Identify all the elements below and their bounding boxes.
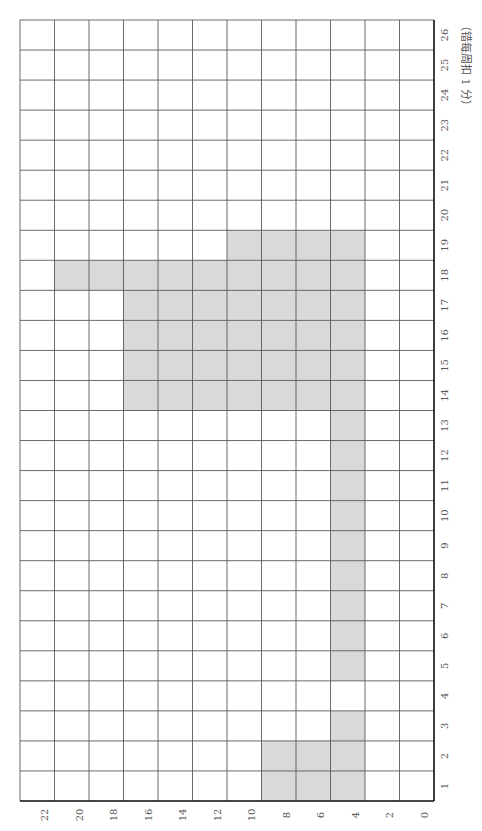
week-label: 17 [439,299,450,312]
range-bar-week-12 [331,441,366,471]
week-label: 23 [439,119,450,132]
week-label: 2 [439,753,450,759]
value-tick-label: 6 [315,812,326,818]
value-tick-label: 20 [74,809,85,822]
grid-lines [20,20,434,801]
week-label: 3 [439,723,450,729]
week-label: 12 [439,449,450,462]
range-bar-week-11 [331,471,366,501]
range-bar-week-16 [124,320,366,350]
range-bar-week-15 [124,350,366,380]
value-tick-label: 18 [108,809,119,822]
range-bar-week-7 [331,591,366,621]
week-label: 4 [439,693,450,699]
week-label: 19 [439,239,450,252]
week-label: 22 [439,149,450,162]
week-label: 13 [439,419,450,432]
week-label: 5 [439,663,450,669]
value-tick-label: 0 [419,812,430,818]
week-label: 24 [439,89,450,102]
range-bar-week-13 [331,411,366,441]
range-bar-week-2 [262,741,366,771]
value-tick-label: 22 [39,809,50,822]
value-tick-label: 4 [350,812,361,818]
week-label: 18 [439,269,450,282]
value-tick-label: 12 [212,809,223,822]
range-bar-week-8 [331,561,366,591]
range-bar-week-1 [262,771,366,801]
rotated-range-chart: 1234567891011121314151617181920212223242… [0,0,482,831]
week-label: 15 [439,359,450,372]
week-label: 11 [439,479,450,492]
week-label: 20 [439,209,450,222]
value-tick-label: 2 [384,812,395,818]
range-bar-week-9 [331,531,366,561]
shaded-ranges [55,230,366,801]
week-label: 25 [439,59,450,72]
week-label: 9 [439,542,450,548]
range-bar-week-3 [331,711,366,741]
value-tick-label: 10 [246,809,257,822]
range-bar-week-6 [331,621,366,651]
week-label: 7 [439,603,450,609]
value-tick-label: 16 [143,809,154,822]
week-axis-labels: 1234567891011121314151617181920212223242… [439,29,450,790]
range-bar-week-14 [124,380,366,410]
week-label: 21 [439,179,450,192]
value-axis-labels: 0246810121416182022 [39,809,430,822]
week-label: 10 [439,509,450,522]
range-bar-week-10 [331,501,366,531]
value-tick-label: 8 [281,812,292,818]
week-label: 1 [439,783,450,789]
range-bar-week-17 [124,290,366,320]
deduction-note: （错每周扣 1 分） [459,20,473,111]
week-label: 26 [439,29,450,42]
week-label: 14 [439,389,450,402]
range-bar-week-18 [55,260,366,290]
week-label: 6 [439,633,450,639]
range-bar-week-5 [331,651,366,681]
week-label: 8 [439,573,450,579]
value-tick-label: 14 [177,809,188,822]
week-label: 16 [439,329,450,342]
